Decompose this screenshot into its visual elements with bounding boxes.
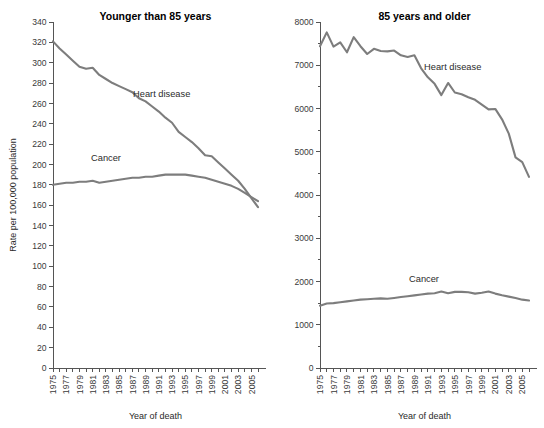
y-tick-label: 280 (32, 78, 47, 88)
x-tick-label: 2001 (220, 375, 230, 394)
y-tick-label: 240 (32, 119, 47, 129)
x-tick-label: 1983 (369, 375, 379, 394)
y-tick-label: 3000 (294, 233, 313, 243)
y-tick-label: 220 (32, 139, 47, 149)
y-tick-label: 120 (32, 241, 47, 251)
x-tick-label: 1985 (383, 375, 393, 394)
panel-title: Younger than 85 years (100, 10, 212, 22)
y-tick-label: 320 (32, 37, 47, 47)
x-tick-label: 1987 (128, 375, 138, 394)
x-tick-label: 1991 (423, 375, 433, 394)
x-axis-title: Year of death (129, 411, 182, 421)
x-tick-label: 1989 (410, 375, 420, 394)
y-axis-title: Rate per 100,000 population (8, 138, 18, 252)
x-tick-label: 1985 (114, 375, 124, 394)
y-tick-label: 6000 (294, 104, 313, 114)
x-tick-label: 1989 (141, 375, 151, 394)
y-tick-label: 0 (42, 363, 47, 373)
y-tick-label: 5000 (294, 147, 313, 157)
x-tick-label: 1997 (194, 375, 204, 394)
x-tick-label: 2005 (247, 375, 257, 394)
y-tick-label: 60 (37, 302, 47, 312)
x-tick-label: 1993 (167, 375, 177, 394)
x-tick-label: 1995 (450, 375, 460, 394)
x-tick-label: 1977 (329, 375, 339, 394)
x-tick-label: 1999 (207, 375, 217, 394)
x-tick-label: 2005 (517, 375, 527, 394)
x-tick-label: 1995 (180, 375, 190, 394)
y-tick-label: 40 (37, 322, 47, 332)
y-tick-label: 80 (37, 282, 47, 292)
x-tick-label: 1991 (154, 375, 164, 394)
y-tick-label: 260 (32, 99, 47, 109)
y-tick-label: 100 (32, 261, 47, 271)
x-tick-label: 1997 (464, 375, 474, 394)
x-tick-label: 2001 (490, 375, 500, 394)
series-annotation-cancer: Cancer (409, 274, 439, 284)
dual-line-chart: Younger than 85 years0204060801001201401… (0, 0, 544, 428)
x-tick-label: 1977 (61, 375, 71, 394)
x-tick-label: 1993 (437, 375, 447, 394)
x-tick-label: 1981 (88, 375, 98, 394)
y-tick-label: 8000 (294, 17, 313, 27)
y-tick-label: 4000 (294, 190, 313, 200)
y-tick-label: 7000 (294, 60, 313, 70)
x-tick-label: 1999 (477, 375, 487, 394)
y-tick-label: 140 (32, 221, 47, 231)
x-tick-label: 1983 (101, 375, 111, 394)
y-tick-label: 180 (32, 180, 47, 190)
x-axis-title: Year of death (398, 411, 451, 421)
x-tick-label: 1987 (396, 375, 406, 394)
y-tick-label: 200 (32, 160, 47, 170)
x-tick-label: 1975 (315, 375, 325, 394)
y-tick-label: 160 (32, 200, 47, 210)
y-tick-label: 1000 (294, 320, 313, 330)
x-tick-label: 1981 (356, 375, 366, 394)
x-tick-label: 1975 (48, 375, 58, 394)
figure-container: Younger than 85 years0204060801001201401… (0, 0, 544, 428)
panel-title: 85 years and older (378, 10, 470, 22)
x-tick-label: 1979 (75, 375, 85, 394)
series-annotation-heart-disease: Heart disease (424, 62, 481, 72)
series-annotation-heart-disease: Heart disease (133, 89, 190, 99)
y-tick-label: 20 (37, 343, 47, 353)
y-tick-label: 2000 (294, 277, 313, 287)
x-tick-label: 1979 (342, 375, 352, 394)
y-tick-label: 340 (32, 17, 47, 27)
x-tick-label: 2003 (233, 375, 243, 394)
y-tick-label: 0 (309, 363, 314, 373)
series-annotation-cancer: Cancer (91, 153, 121, 163)
x-tick-label: 2003 (504, 375, 514, 394)
y-tick-label: 300 (32, 58, 47, 68)
